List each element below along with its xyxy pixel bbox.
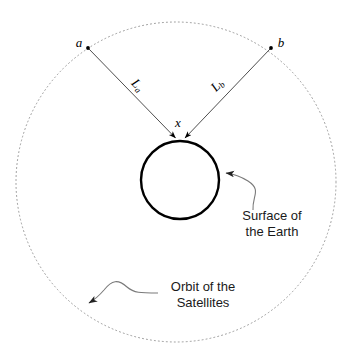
earth-surface-label-line2: the Earth [246,224,299,239]
orbit-label-line1: Orbit of the [171,279,235,294]
receiver-label: x [174,115,181,130]
orbit-pointer [89,282,158,303]
satellite-a-label: a [76,35,83,50]
svg-text:Lb: Lb [207,75,228,96]
svg-text:La: La [127,75,148,96]
satellite-b-dot [269,46,273,50]
diagram-svg: a b x La Lb Surface of the Earth Orbit o… [0,0,355,362]
earth-circle [141,141,219,219]
orbit-label-line2: Satellites [177,295,230,310]
earth-surface-label-line1: Surface of [242,208,302,223]
earth-surface-pointer [226,173,256,210]
distance-line-a [89,49,176,138]
satellite-a-dot [86,46,90,50]
satellite-b-label: b [278,35,285,50]
distance-label-b: Lb [207,75,228,96]
distance-label-a: La [127,75,148,96]
diagram-canvas: a b x La Lb Surface of the Earth Orbit o… [0,0,355,362]
distance-line-b [185,49,270,138]
